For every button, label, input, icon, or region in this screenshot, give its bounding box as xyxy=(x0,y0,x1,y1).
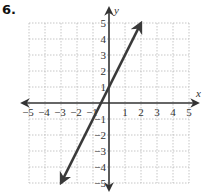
y-tick-label: 1 xyxy=(101,81,107,93)
y-axis-label: y xyxy=(113,4,119,16)
y-tick-label: 5 xyxy=(101,17,107,29)
x-tick-label: −5 xyxy=(22,106,34,118)
x-tick-label: −3 xyxy=(54,106,66,118)
x-tick-label: −2 xyxy=(70,106,82,118)
x-tick-label: 4 xyxy=(170,106,176,118)
y-tick-label: −4 xyxy=(94,161,106,173)
x-tick-label: 5 xyxy=(186,106,192,118)
x-tick-label: 3 xyxy=(154,106,160,118)
coordinate-plane: x y −5−4−3−2−112345−5−4−3−2−112345 xyxy=(0,0,204,192)
axes: x y xyxy=(22,4,201,190)
y-tick-label: −5 xyxy=(94,177,106,189)
y-tick-label: 4 xyxy=(101,33,107,45)
x-tick-label: 2 xyxy=(138,106,144,118)
x-tick-label: −4 xyxy=(38,106,50,118)
y-tick-label: 2 xyxy=(101,65,107,77)
y-tick-label: 3 xyxy=(101,49,107,61)
x-axis-label: x xyxy=(195,87,201,99)
y-tick-label: −3 xyxy=(94,145,106,157)
x-tick-label: 1 xyxy=(122,106,128,118)
y-tick-label: −2 xyxy=(94,129,106,141)
